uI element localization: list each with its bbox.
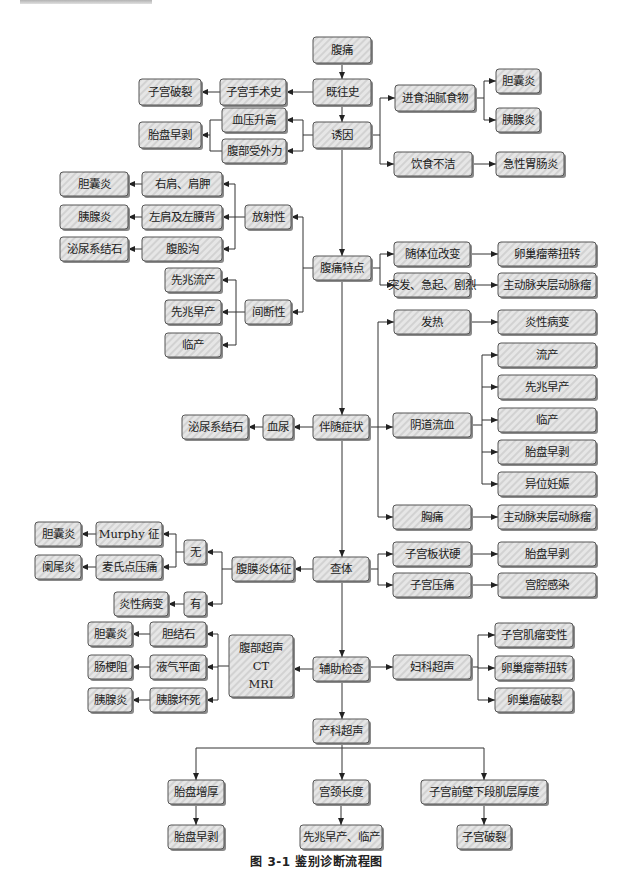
flow-node-zuojian: 左肩及左腰背 <box>142 205 224 231</box>
flow-node-changgengzu: 肠梗阻 <box>88 655 134 681</box>
node-label: 既往史 <box>326 85 360 99</box>
flow-node-gongjing: 宫颈长度 <box>313 780 371 806</box>
node-label: 血尿 <box>267 420 289 434</box>
node-label: 胰腺坏死 <box>156 693 201 707</box>
flow-node-taipan_1: 胎盘早剥 <box>139 122 203 150</box>
node-label: CT <box>253 659 270 673</box>
flow-node-danjieshi: 胆结石 <box>150 622 208 648</box>
flowchart-nodes: 腹痛既往史子宫手术史子宫破裂诱因血压升高腹部受外力胎盘早剥进食油腻食物胆囊炎胰腺… <box>35 37 598 851</box>
flow-node-yeqi: 液气平面 <box>150 655 208 681</box>
figure-caption: 图 3-1 鉴别诊断流程图 <box>0 852 633 869</box>
node-label: 子宫压痛 <box>410 578 454 592</box>
differential-diagnosis-flowchart: 腹痛既往史子宫手术史子宫破裂诱因血压升高腹部受外力胎盘早剥进食油腻食物胆囊炎胰腺… <box>0 0 633 894</box>
node-label: 先兆早产 <box>525 380 569 394</box>
arrow-connector <box>286 120 313 135</box>
node-label: 间断性 <box>252 305 285 319</box>
arrow-connector <box>380 135 394 164</box>
flow-node-miniao_2: 泌尿系结石 <box>182 415 250 441</box>
node-label: 胰腺炎 <box>502 113 535 127</box>
node-label: 左肩及左腰背 <box>149 210 215 224</box>
flow-node-yindao: 阴道流血 <box>393 413 473 439</box>
node-label: 产科超声 <box>319 724 363 738</box>
node-label: 宫颈长度 <box>319 785 364 799</box>
node-label: 炎性病变 <box>119 597 163 611</box>
flow-node-zaochan_2: 先兆早产 <box>498 375 598 401</box>
arrow-connector <box>475 81 496 98</box>
node-label: 查体 <box>330 562 353 576</box>
node-label: 先兆早产、临产 <box>303 830 380 844</box>
flow-node-chanke: 产科超声 <box>313 719 371 745</box>
flow-node-jiwangshi: 既往史 <box>313 79 373 107</box>
flow-node-yixian_2: 胰腺炎 <box>60 205 130 231</box>
node-label: 异位妊娠 <box>525 477 570 491</box>
flow-node-taipan_2: 胎盘早剥 <box>498 440 598 466</box>
node-label: 腹痛特点 <box>320 261 364 275</box>
node-label: 放射性 <box>252 210 285 224</box>
node-label: 子宫破裂 <box>462 830 507 844</box>
node-label: 突发、急起、剧烈 <box>388 278 477 292</box>
node-label: 腹痛 <box>331 43 353 57</box>
node-label: 子宫板状硬 <box>405 547 461 561</box>
flow-node-linchan_1: 临产 <box>165 333 223 359</box>
node-label: 血压升高 <box>232 113 276 127</box>
flow-node-danlang_4: 胆囊炎 <box>88 622 134 648</box>
node-label: 泌尿系结石 <box>188 420 243 434</box>
flow-node-xueniao: 血尿 <box>263 415 295 441</box>
arrow-connector <box>371 98 395 135</box>
flow-node-danlang_2: 胆囊炎 <box>60 172 130 198</box>
flow-node-zigong_shoushu: 子宫手术史 <box>220 79 288 107</box>
node-label: 发热 <box>421 315 444 329</box>
flow-node-fuke: 妇科超声 <box>393 655 473 681</box>
node-label: 饮食不洁 <box>411 157 455 171</box>
flow-node-liuchan_2: 流产 <box>498 343 598 369</box>
node-label: 炎性病变 <box>525 315 569 329</box>
node-label: 胎盘早剥 <box>525 445 569 459</box>
node-label: 流产 <box>536 348 558 362</box>
flow-node-youjian: 右肩、肩胛 <box>142 172 224 198</box>
node-label: 胎盘早剥 <box>174 830 218 844</box>
node-label: 胰腺炎 <box>94 693 127 707</box>
flow-node-zigong_qianbi: 子宫前壁下段肌层厚度 <box>421 780 549 806</box>
flow-node-xiongtong: 胸痛 <box>393 505 473 531</box>
flow-node-zigong_polie_1: 子宫破裂 <box>139 79 203 107</box>
node-label: 子宫前壁下段肌层厚度 <box>429 785 540 799</box>
node-label: 胎盘增厚 <box>174 785 218 799</box>
flow-node-yinshi: 饮食不洁 <box>394 152 474 178</box>
node-label: 胆结石 <box>162 627 195 641</box>
flow-node-zaochan_linchan: 先兆早产、临产 <box>300 825 384 851</box>
node-label: 胆囊炎 <box>502 74 535 88</box>
node-label: 子宫肌瘤变性 <box>501 628 567 642</box>
flow-node-maishi: 麦氏点压痛 <box>96 555 164 581</box>
node-label: 宫腔感染 <box>525 578 570 592</box>
node-label: 先兆早产 <box>171 305 215 319</box>
node-label: 诱因 <box>331 128 353 142</box>
node-label: 有 <box>190 597 201 611</box>
arrow-connector <box>286 135 303 151</box>
flow-node-taipan_zenghou: 胎盘增厚 <box>168 780 226 806</box>
flow-node-miniao_1: 泌尿系结石 <box>60 237 130 263</box>
flow-node-fubu_chaosheng: 腹部超声CTMRI <box>229 635 295 699</box>
flow-node-yixian_3: 胰腺炎 <box>88 688 134 714</box>
flow-node-xueya: 血压升高 <box>222 108 288 134</box>
node-label: 随体位改变 <box>405 247 460 261</box>
flow-node-you: 有 <box>184 592 208 618</box>
node-label: 辅助检查 <box>319 662 364 676</box>
node-label: 卵巢瘤破裂 <box>507 693 563 707</box>
node-label: 胸痛 <box>421 510 443 524</box>
flow-node-fubu_waili: 腹部受外力 <box>222 139 288 165</box>
flow-node-yixian_huaisi: 胰腺坏死 <box>150 688 208 714</box>
node-label: 阴道流血 <box>410 418 455 432</box>
flow-node-yanxing_1: 炎性病变 <box>498 310 598 336</box>
node-label: 无 <box>190 545 202 559</box>
node-label: 胎盘早剥 <box>525 547 569 561</box>
flow-node-lanwei: 阑尾炎 <box>35 555 83 581</box>
node-label: 主动脉夹层动脉瘤 <box>503 278 592 292</box>
flow-node-tiwei: 随体位改变 <box>394 242 472 268</box>
flow-node-jianduan: 间断性 <box>245 300 293 326</box>
flow-node-chati: 查体 <box>313 557 371 583</box>
arrow-connector <box>369 554 393 569</box>
arrow-connector <box>291 217 313 268</box>
flow-node-danlang_3: 胆囊炎 <box>35 522 83 548</box>
flow-node-banshui: 伴随症状 <box>313 415 371 441</box>
flow-node-youyin: 诱因 <box>313 122 373 150</box>
